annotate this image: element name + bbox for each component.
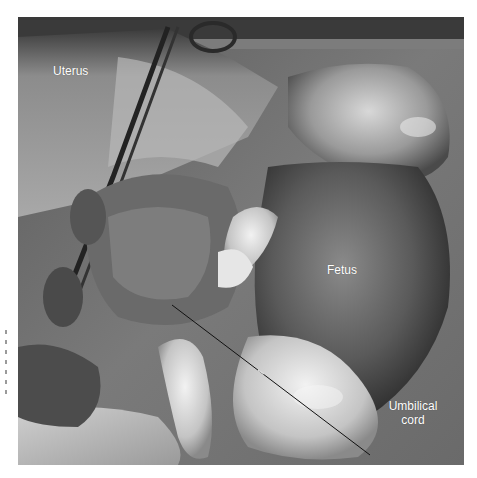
edge-marks [3, 330, 9, 410]
photo-illustration [18, 17, 464, 465]
label-uterus: Uterus [53, 64, 88, 78]
label-umbilical-line1: Umbilical [378, 399, 448, 413]
label-umbilical-cord: Umbilical cord [378, 399, 448, 427]
label-umbilical-line2: cord [378, 413, 448, 427]
specimen-photo [18, 17, 464, 465]
label-fetus: Fetus [327, 263, 357, 277]
